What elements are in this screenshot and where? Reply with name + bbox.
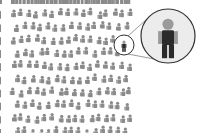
- crowd-figures: [0, 0, 132, 133]
- crowd-illustration: [0, 0, 204, 133]
- crowd-graphic: [0, 0, 204, 133]
